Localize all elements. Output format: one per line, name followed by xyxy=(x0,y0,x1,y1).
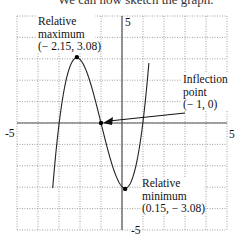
y-tick-label: -5 xyxy=(131,224,141,236)
inflection-label: point xyxy=(183,86,207,99)
relative-maximum-point xyxy=(75,55,79,59)
min-label: minimum xyxy=(142,190,187,202)
arrow-line xyxy=(109,113,185,121)
arrowhead xyxy=(103,117,113,125)
inflection-point-point xyxy=(99,121,103,125)
min-label: (0.15, − 3.08) xyxy=(142,202,205,215)
min-label: Relative xyxy=(142,177,180,189)
chart: -555-5Relativemaximum(− 2.15, 3.08)Infle… xyxy=(0,0,243,244)
y-tick-label: 5 xyxy=(125,16,131,28)
x-tick-label: 5 xyxy=(229,128,235,140)
max-label: (− 2.15, 3.08) xyxy=(38,40,101,53)
x-tick-label: -5 xyxy=(5,127,15,139)
max-label: maximum xyxy=(38,28,85,40)
inflection-label: (− 1, 0) xyxy=(183,98,217,111)
relative-minimum-point xyxy=(123,187,127,191)
inflection-label: Inflection xyxy=(183,73,228,85)
max-label: Relative xyxy=(38,15,76,27)
